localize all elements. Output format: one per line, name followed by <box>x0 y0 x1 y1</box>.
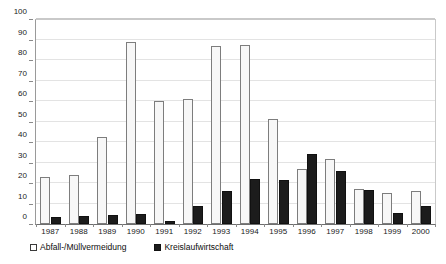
x-tick-mark <box>435 224 436 227</box>
y-tick-label: 50 <box>18 111 27 119</box>
bar-1996-series2 <box>307 154 317 224</box>
bar-group-1994 <box>240 19 261 224</box>
y-tick-mark <box>29 81 33 82</box>
bar-group-1995 <box>268 19 289 224</box>
y-tick-label: 90 <box>18 29 27 37</box>
bar-group-1989 <box>97 19 118 224</box>
bar-1987-series1 <box>40 177 50 224</box>
y-tick-mark <box>29 224 33 225</box>
bar-1989-series1 <box>97 137 107 224</box>
bar-1997-series1 <box>325 159 335 224</box>
y-tick-label: 20 <box>18 172 27 180</box>
x-tick-label: 1991 <box>150 227 179 237</box>
y-tick-mark <box>29 142 33 143</box>
bar-1996-series1 <box>297 169 307 224</box>
bar-chart: 0102030405060708090100 19871988198919901… <box>0 0 446 264</box>
bar-group-1991 <box>154 19 175 224</box>
x-tick-label: 1992 <box>179 227 208 237</box>
x-tick-label: 1997 <box>321 227 350 237</box>
bar-2000-series1 <box>411 191 421 224</box>
bar-1999-series2 <box>393 213 403 224</box>
y-tick-mark <box>29 183 33 184</box>
bar-1988-series1 <box>69 175 79 224</box>
bar-1995-series1 <box>268 119 278 224</box>
x-tick-label: 1989 <box>93 227 122 237</box>
x-tick-label: 1990 <box>122 227 151 237</box>
y-tick-label: 10 <box>18 193 27 201</box>
y-tick-mark <box>29 163 33 164</box>
legend-swatch-icon <box>30 244 37 251</box>
y-axis: 0102030405060708090100 <box>0 19 33 225</box>
x-tick-label: 1987 <box>36 227 65 237</box>
bar-1998-series1 <box>354 189 364 224</box>
y-tick-mark <box>29 101 33 102</box>
legend-entry-2[interactable]: Kreislaufwirtschaft <box>154 243 233 252</box>
bar-1993-series1 <box>211 46 221 224</box>
bar-1999-series1 <box>382 193 392 224</box>
y-tick-label: 80 <box>18 49 27 57</box>
bar-1990-series1 <box>126 42 136 224</box>
y-tick-mark <box>29 40 33 41</box>
bar-1991-series2 <box>165 221 175 224</box>
x-tick-label: 1998 <box>350 227 379 237</box>
x-tick-label: 1995 <box>264 227 293 237</box>
legend-label: Kreislaufwirtschaft <box>164 243 233 252</box>
bar-group-1993 <box>211 19 232 224</box>
y-tick-label: 60 <box>18 90 27 98</box>
bar-group-1999 <box>382 19 403 224</box>
bar-1992-series2 <box>193 206 203 224</box>
bar-1993-series2 <box>222 191 232 224</box>
y-tick-label: 100 <box>14 8 27 16</box>
y-tick-label: 30 <box>18 152 27 160</box>
y-tick-mark <box>29 60 33 61</box>
legend-entry-1[interactable]: Abfall-/Müllvermeidung <box>30 243 126 252</box>
y-tick-mark <box>29 19 33 20</box>
chart-legend: Abfall-/MüllvermeidungKreislaufwirtschaf… <box>30 243 233 252</box>
y-tick-label: 70 <box>18 70 27 78</box>
legend-label: Abfall-/Müllvermeidung <box>40 243 126 252</box>
bar-1992-series1 <box>183 99 193 224</box>
bar-1997-series2 <box>336 171 346 224</box>
bar-1995-series2 <box>279 180 289 224</box>
x-axis: 1987198819891990199119921993199419951996… <box>36 227 435 241</box>
bar-group-1998 <box>354 19 375 224</box>
y-tick-label: 40 <box>18 131 27 139</box>
bar-1988-series2 <box>79 216 89 224</box>
bar-group-2000 <box>411 19 432 224</box>
x-tick-label: 1999 <box>378 227 407 237</box>
bars-layer <box>36 19 435 224</box>
x-tick-label: 1988 <box>65 227 94 237</box>
bar-1990-series2 <box>136 214 146 224</box>
bar-group-1992 <box>183 19 204 224</box>
bar-group-1996 <box>297 19 318 224</box>
bar-1994-series1 <box>240 45 250 224</box>
bar-group-1987 <box>40 19 61 224</box>
bar-group-1990 <box>126 19 147 224</box>
y-tick-mark <box>29 122 33 123</box>
x-tick-label: 1993 <box>207 227 236 237</box>
bar-1989-series2 <box>108 215 118 224</box>
x-tick-label: 2000 <box>407 227 436 237</box>
y-tick-label: 0 <box>23 213 27 221</box>
bar-1994-series2 <box>250 179 260 224</box>
bar-1991-series1 <box>154 101 164 224</box>
y-tick-mark <box>29 204 33 205</box>
bar-group-1988 <box>69 19 90 224</box>
x-tick-label: 1996 <box>293 227 322 237</box>
x-tick-label: 1994 <box>236 227 265 237</box>
bar-2000-series2 <box>421 206 431 224</box>
legend-swatch-icon <box>154 244 161 251</box>
bar-1998-series2 <box>364 190 374 224</box>
bar-1987-series2 <box>51 217 61 224</box>
bar-group-1997 <box>325 19 346 224</box>
